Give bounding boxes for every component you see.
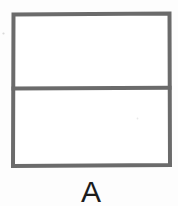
scan-speck: [2, 32, 4, 34]
figure-label: A: [0, 177, 178, 206]
region-top-half: [15, 16, 168, 86]
horizontal-divider-line: [14, 88, 170, 89]
region-bottom-half: [15, 90, 168, 164]
scan-speck: [137, 118, 139, 120]
figure-container: A: [0, 0, 178, 206]
